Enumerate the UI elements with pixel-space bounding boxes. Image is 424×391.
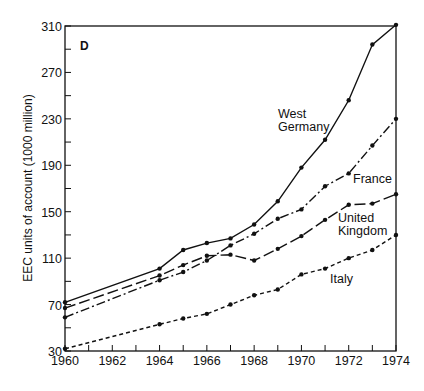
x-tick-label: 1960 bbox=[51, 354, 79, 368]
data-point bbox=[394, 117, 398, 121]
data-point bbox=[228, 243, 232, 247]
line-chart: 3070110150190230270310 19601962196419661… bbox=[0, 0, 424, 391]
data-point bbox=[181, 270, 185, 274]
data-point bbox=[205, 254, 209, 258]
data-point bbox=[205, 241, 209, 245]
data-point bbox=[181, 316, 185, 320]
data-point bbox=[276, 247, 280, 251]
data-point bbox=[205, 258, 209, 262]
data-point bbox=[323, 218, 327, 222]
data-point bbox=[157, 266, 161, 270]
series-label: United bbox=[338, 211, 374, 225]
x-axis: 19601962196419661968197019721974 bbox=[51, 345, 410, 368]
series-label: France bbox=[353, 172, 392, 186]
x-tick-label: 1966 bbox=[193, 354, 221, 368]
data-point bbox=[370, 248, 374, 252]
data-point bbox=[394, 233, 398, 237]
y-tick-label: 190 bbox=[41, 159, 62, 173]
data-point bbox=[63, 346, 67, 350]
data-point bbox=[394, 192, 398, 196]
series-west-germany bbox=[63, 23, 398, 305]
y-axis-title: EEC units of account (1000 million) bbox=[21, 94, 35, 281]
data-point bbox=[252, 232, 256, 236]
data-point bbox=[370, 201, 374, 205]
x-tick-label: 1962 bbox=[98, 354, 126, 368]
data-point bbox=[252, 222, 256, 226]
data-point bbox=[347, 203, 351, 207]
series-label: Germany bbox=[278, 120, 330, 134]
data-point bbox=[228, 252, 232, 256]
data-point bbox=[394, 23, 398, 27]
data-point bbox=[299, 207, 303, 211]
data-point bbox=[347, 171, 351, 175]
data-point bbox=[205, 312, 209, 316]
series-united-kingdom bbox=[63, 192, 398, 310]
y-tick-label: 310 bbox=[41, 20, 62, 34]
data-point bbox=[157, 322, 161, 326]
data-point bbox=[63, 300, 67, 304]
data-point bbox=[252, 293, 256, 297]
y-tick-label: 150 bbox=[41, 206, 62, 220]
data-point bbox=[347, 98, 351, 102]
data-point bbox=[63, 306, 67, 310]
x-tick-label: 1974 bbox=[382, 354, 410, 368]
data-point bbox=[276, 287, 280, 291]
y-tick-label: 230 bbox=[41, 113, 62, 127]
data-point bbox=[157, 273, 161, 277]
data-point bbox=[228, 302, 232, 306]
series-label: Kingdom bbox=[338, 224, 387, 238]
data-point bbox=[370, 143, 374, 147]
data-point bbox=[347, 256, 351, 260]
data-point bbox=[323, 184, 327, 188]
data-point bbox=[370, 42, 374, 46]
data-point bbox=[276, 199, 280, 203]
x-tick-label: 1964 bbox=[146, 354, 174, 368]
panel-label: D bbox=[80, 39, 89, 53]
data-point bbox=[63, 315, 67, 319]
data-point bbox=[181, 263, 185, 267]
data-point bbox=[299, 165, 303, 169]
series-label: Italy bbox=[330, 272, 354, 286]
data-point bbox=[299, 234, 303, 238]
x-tick-label: 1968 bbox=[240, 354, 268, 368]
data-point bbox=[228, 236, 232, 240]
data-point bbox=[181, 248, 185, 252]
data-point bbox=[252, 258, 256, 262]
data-point bbox=[299, 272, 303, 276]
y-tick-label: 70 bbox=[48, 299, 62, 313]
x-tick-label: 1972 bbox=[335, 354, 363, 368]
plot-frame bbox=[65, 26, 396, 351]
data-point bbox=[276, 216, 280, 220]
series-label: West bbox=[278, 107, 307, 121]
y-tick-label: 110 bbox=[42, 252, 62, 266]
series-layer bbox=[63, 23, 398, 351]
data-point bbox=[323, 138, 327, 142]
data-point bbox=[323, 266, 327, 270]
x-tick-label: 1970 bbox=[288, 354, 316, 368]
series-labels: WestGermanyFranceUnitedKingdomItaly bbox=[278, 107, 392, 286]
y-tick-label: 270 bbox=[41, 66, 62, 80]
data-point bbox=[157, 278, 161, 282]
